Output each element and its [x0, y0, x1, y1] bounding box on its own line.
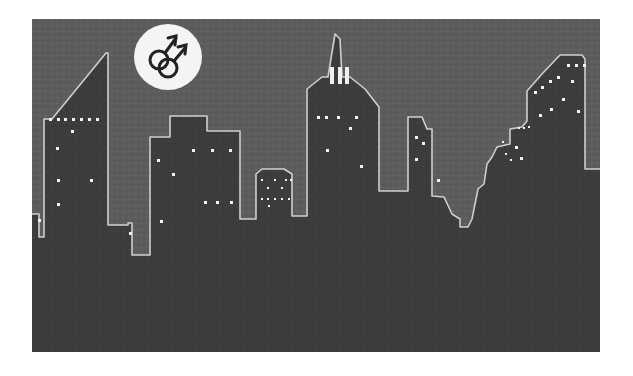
skyline-svg	[32, 19, 600, 352]
skyline-illustration: ⚣	[32, 19, 600, 352]
gender-symbol-badge: ⚣	[134, 24, 202, 90]
tower-columns	[330, 67, 349, 84]
double-male-symbol-icon	[134, 24, 202, 90]
